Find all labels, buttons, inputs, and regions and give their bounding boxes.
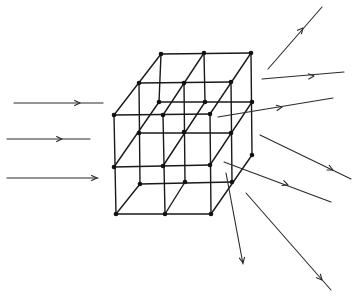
lattice-node <box>159 52 164 57</box>
lattice-node <box>202 51 207 56</box>
lattice-node <box>229 131 234 136</box>
lattice-edge <box>114 102 159 167</box>
lattice-edge <box>165 182 185 214</box>
scattered-ray <box>246 193 331 290</box>
lattice-nodes <box>112 51 255 217</box>
lattice-node <box>163 212 168 217</box>
lattice-node <box>182 81 187 86</box>
lattice-edge <box>159 54 161 102</box>
arrowhead-icon <box>282 181 288 186</box>
lattice-node <box>203 100 208 105</box>
lattice-node <box>208 112 213 117</box>
lattice-node <box>250 100 255 105</box>
scattered-ray <box>226 173 243 264</box>
incident-rays <box>7 100 103 180</box>
lattice-node <box>157 100 162 105</box>
lattice-node <box>112 165 117 170</box>
lattice-node <box>137 131 142 136</box>
lattice-node <box>114 212 119 217</box>
lattice-node <box>138 182 143 187</box>
lattice-node <box>230 180 235 185</box>
lattice-edge <box>204 53 205 102</box>
scattered-ray <box>224 162 331 202</box>
diagram-canvas: Scattering of parallel incident rays by … <box>0 0 356 302</box>
scattered-ray <box>218 98 333 117</box>
lattice-node <box>161 113 166 118</box>
lattice-node <box>161 164 166 169</box>
lattice-scattering-diagram <box>0 0 356 302</box>
arrowhead-icon <box>297 28 303 34</box>
lattice-node <box>209 212 214 217</box>
scattered-ray <box>262 72 344 79</box>
lattice-node <box>249 51 254 56</box>
lattice-node <box>208 163 213 168</box>
lattice-node <box>182 130 187 135</box>
lattice-node <box>183 180 188 185</box>
lattice-node <box>137 81 142 86</box>
lattice-edge <box>116 184 140 214</box>
scattered-ray <box>260 135 351 179</box>
scattered-ray <box>268 7 322 69</box>
lattice-node <box>229 80 234 85</box>
lattice-node <box>112 113 117 118</box>
scattered-rays <box>218 7 351 290</box>
lattice-node <box>250 153 255 158</box>
